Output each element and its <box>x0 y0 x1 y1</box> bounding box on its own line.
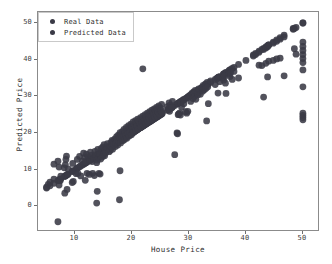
legend-marker-icon <box>50 19 55 24</box>
legend-label-predicted-data: Predicted Data <box>64 29 126 37</box>
x-tick-label: 20 <box>118 234 144 242</box>
scatter-plot-figure: 01020304050 1020304050 Real Data Predict… <box>0 0 332 264</box>
y-tick-label: 0 <box>12 201 32 209</box>
y-tick-label: 50 <box>12 18 32 26</box>
legend-item-real-data: Real Data <box>44 16 126 27</box>
y-axis-title: Predicted Price <box>15 55 24 175</box>
x-tick-label: 40 <box>232 234 258 242</box>
series-predicted-data <box>43 20 306 226</box>
legend-label-real-data: Real Data <box>64 18 104 26</box>
x-tick-label: 50 <box>289 234 315 242</box>
x-tick-label: 30 <box>175 234 201 242</box>
plot-area <box>37 11 319 231</box>
legend-marker-icon <box>50 30 55 35</box>
data-points-layer <box>38 12 320 232</box>
chart-legend: Real Data Predicted Data <box>38 12 134 42</box>
x-tick-label: 10 <box>61 234 87 242</box>
x-axis-title: House Price <box>37 245 319 254</box>
legend-item-predicted-data: Predicted Data <box>44 27 126 38</box>
